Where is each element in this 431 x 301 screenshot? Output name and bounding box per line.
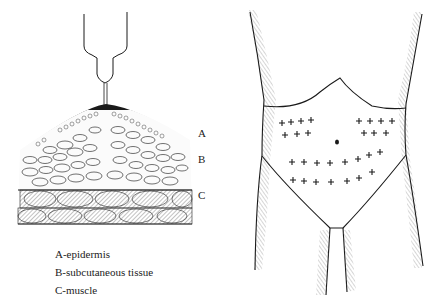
plus-mark-icon (344, 178, 350, 184)
plus-mark-icon (356, 175, 362, 181)
legend-item-subcutaneous: B-subcutaneous tissue (55, 263, 153, 281)
plus-mark-icon (366, 152, 372, 158)
plus-mark-icon (355, 156, 361, 162)
layer-label-c: C (198, 189, 205, 201)
plus-mark-icon (371, 130, 377, 136)
plus-mark-icon (378, 118, 384, 124)
subcutaneous-layer (18, 110, 194, 190)
plus-mark-icon (342, 159, 348, 165)
plus-mark-icon (377, 149, 383, 155)
layer-label-b: B (198, 153, 205, 165)
plus-mark-icon (288, 119, 294, 125)
rib-margin (264, 78, 406, 109)
legend-item-muscle: C-muscle (55, 281, 153, 299)
plus-mark-icon (383, 130, 389, 136)
plus-mark-icon (308, 117, 314, 123)
legend: A-epidermis B-subcutaneous tissue C-musc… (55, 245, 153, 299)
plus-mark-icon (279, 120, 285, 126)
plus-mark-icon (328, 179, 334, 185)
plus-mark-icon (290, 177, 296, 183)
plus-mark-icon (282, 132, 288, 138)
plus-mark-icon (369, 169, 375, 175)
plus-mark-icon (301, 159, 307, 165)
torso-outline (248, 10, 423, 295)
plus-mark-icon (314, 160, 320, 166)
syringe-barrel (84, 12, 127, 83)
plus-mark-icon (367, 118, 373, 124)
plus-mark-icon (327, 160, 333, 166)
plus-mark-icon (298, 118, 304, 124)
tissue-layers (18, 104, 194, 224)
layer-label-a: A (198, 127, 206, 139)
plus-mark-icon (289, 159, 295, 165)
plus-mark-icon (389, 118, 395, 124)
plus-mark-icon (361, 130, 367, 136)
groin-line (262, 155, 406, 228)
umbilicus (335, 139, 339, 144)
muscle-layer (18, 190, 192, 224)
plus-mark-icon (294, 131, 300, 137)
legend-item-epidermis: A-epidermis (55, 245, 153, 263)
plus-mark-icon (356, 118, 362, 124)
injection-site-marks (279, 117, 395, 185)
plus-mark-icon (305, 130, 311, 136)
plus-mark-icon (313, 179, 319, 185)
plus-mark-icon (301, 178, 307, 184)
